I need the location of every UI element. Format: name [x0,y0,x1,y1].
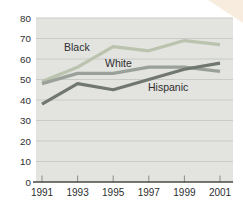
series-label-hispanic: Hispanic [148,81,188,93]
y-axis-tick-label: 80 [20,13,31,24]
x-axis-tick-label: 2001 [209,187,232,198]
x-axis-tick-label: 1997 [138,187,161,198]
series-label-white: White [105,57,132,69]
y-axis-tick-label: 50 [20,74,31,85]
x-axis-tick-label: 1993 [66,187,89,198]
series-label-black: Black [64,41,90,53]
y-axis-tick-label: 30 [20,115,31,126]
y-axis-tick-label: 60 [20,54,31,65]
y-axis-tick-label: 10 [20,156,31,167]
x-axis-tick-label: 1991 [31,187,54,198]
line-chart: 0102030405060708019911993199519971999200… [0,0,243,212]
y-axis-tick-label: 70 [20,33,31,44]
line-chart-figure: 0102030405060708019911993199519971999200… [0,0,243,212]
y-axis-tick-label: 40 [20,95,31,106]
x-axis-tick-label: 1999 [173,187,196,198]
x-axis-tick-label: 1995 [102,187,125,198]
y-axis-tick-label: 0 [26,177,32,188]
y-axis-tick-label: 20 [20,136,31,147]
